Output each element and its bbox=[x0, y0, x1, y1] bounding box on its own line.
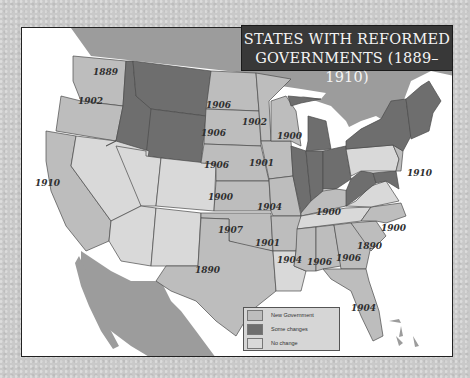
label-kentucky: 1900 bbox=[316, 207, 342, 217]
state-new-mexico bbox=[151, 208, 201, 266]
state-wyoming bbox=[146, 109, 206, 163]
label-california: 1910 bbox=[35, 178, 61, 188]
label-florida: 1904 bbox=[351, 303, 376, 313]
label-alabama: 1906 bbox=[307, 257, 333, 267]
label-north-dakota: 1906 bbox=[206, 100, 232, 110]
label-oregon: 1902 bbox=[78, 96, 103, 106]
label-georgia: 1906 bbox=[336, 253, 362, 263]
swatch-some-changes bbox=[247, 324, 263, 335]
label-minnesota: 1902 bbox=[242, 117, 267, 127]
legend-item-no-change: No change bbox=[244, 336, 339, 350]
legend-label: Some changes bbox=[271, 326, 308, 332]
label-oklahoma: 1907 bbox=[218, 225, 244, 235]
legend-label: No change bbox=[271, 340, 298, 346]
caribbean-islands bbox=[389, 319, 419, 347]
label-washington: 1889 bbox=[93, 67, 119, 77]
label-north-carolina: 1900 bbox=[381, 223, 407, 233]
label-south-dakota: 1906 bbox=[201, 128, 227, 138]
label-arkansas: 1901 bbox=[255, 238, 280, 248]
title-line-1: STATES WITH REFORMED bbox=[242, 30, 452, 49]
label-wisconsin: 1900 bbox=[277, 131, 303, 141]
label-missouri: 1904 bbox=[257, 202, 282, 212]
map-legend: New Government Some changes No change bbox=[243, 307, 340, 351]
label-new-jersey: 1910 bbox=[407, 168, 433, 178]
label-south-carolina: 1890 bbox=[357, 241, 383, 251]
legend-label: New Government bbox=[271, 312, 314, 318]
swatch-new-government bbox=[247, 310, 263, 321]
title-line-2: GOVERNMENTS (1889–1910) bbox=[242, 49, 452, 87]
swatch-no-change bbox=[247, 338, 263, 349]
state-new-england bbox=[406, 81, 441, 139]
label-kansas: 1900 bbox=[208, 192, 234, 202]
label-nebraska: 1906 bbox=[204, 160, 230, 170]
label-mississippi: 1904 bbox=[277, 255, 302, 265]
label-texas: 1890 bbox=[195, 265, 221, 275]
legend-item-new-government: New Government bbox=[244, 308, 339, 322]
label-iowa: 1901 bbox=[249, 158, 274, 168]
map-title: STATES WITH REFORMED GOVERNMENTS (1889–1… bbox=[241, 25, 453, 71]
state-pennsylvania bbox=[346, 145, 399, 176]
legend-item-some-changes: Some changes bbox=[244, 322, 339, 336]
